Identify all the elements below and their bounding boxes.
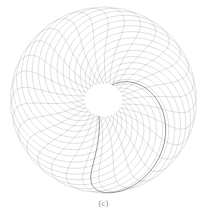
spirograph-curve xyxy=(27,98,138,180)
spirograph-svg xyxy=(0,0,207,198)
subfigure-caption: (c) xyxy=(98,198,108,209)
center-hole xyxy=(85,84,123,117)
caption-row: (c) xyxy=(0,198,207,220)
spirograph-curve xyxy=(69,20,180,102)
figure-panel: (c) xyxy=(0,0,207,220)
spirograph-plot-area xyxy=(0,0,207,198)
